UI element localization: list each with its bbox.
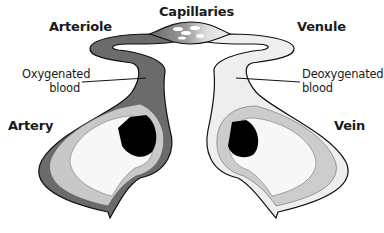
deoxygenated-blood-label: Deoxygenated blood (302, 67, 383, 95)
artery-label: Artery (8, 118, 53, 133)
artery-vessel (39, 34, 180, 218)
oxygenated-blood-label: Oxygenated blood (22, 67, 80, 95)
arteriole-label: Arteriole (49, 19, 112, 34)
venule-label: Venule (297, 19, 346, 34)
deoxygenated-label-line2: blood (302, 81, 383, 95)
deoxygenated-label-line1: Deoxygenated (302, 67, 383, 81)
blood-vessel-diagram (0, 0, 384, 233)
oxygenated-label-line1: Oxygenated (22, 67, 80, 81)
oxygenated-label-line2: blood (22, 81, 80, 95)
capillaries-label: Capillaries (159, 4, 234, 19)
oxygenated-pointer-line (82, 78, 146, 82)
vein-vessel (200, 34, 348, 218)
vein-label: Vein (334, 118, 365, 133)
